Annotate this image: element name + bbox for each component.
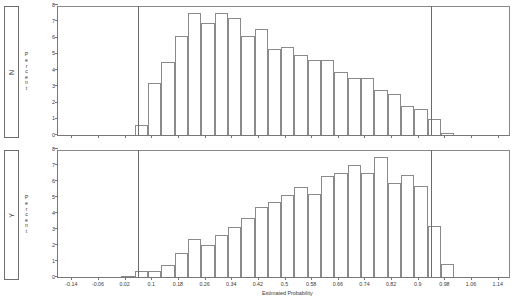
- histogram-bar: [175, 253, 188, 277]
- histogram-bar: [281, 47, 294, 135]
- histogram-bar: [321, 176, 334, 277]
- y-tick-mark: [55, 85, 58, 86]
- y-tick-mark: [55, 37, 58, 38]
- x-tick-label: 1.14: [493, 281, 503, 287]
- x-tick-mark: [178, 277, 179, 280]
- x-tick-mark: [418, 277, 419, 280]
- histogram-bar: [361, 78, 374, 135]
- y-tick-mark: [55, 180, 58, 181]
- histogram-bar: [175, 36, 188, 135]
- histogram-bar: [388, 94, 401, 135]
- histogram-bar: [135, 271, 148, 277]
- histogram-bar: [334, 72, 347, 135]
- x-tick-mark: [471, 277, 472, 280]
- x-tick-label: 0.74: [359, 281, 369, 287]
- x-tick-label: 1.06: [466, 281, 476, 287]
- histogram-bar: [308, 194, 321, 277]
- histogram-bar: [374, 157, 387, 277]
- y-tick-mark: [55, 53, 58, 54]
- histogram-bar: [215, 235, 228, 277]
- x-tick-mark: [338, 135, 339, 138]
- histogram-bar: [255, 29, 268, 135]
- histogram-bar: [374, 90, 387, 136]
- x-tick-label: 0.42: [253, 281, 263, 287]
- histogram-bar: [308, 60, 321, 135]
- panel-strip-y: Y: [4, 150, 19, 280]
- x-tick-mark: [151, 135, 152, 138]
- x-tick-label: 0.66: [333, 281, 343, 287]
- histogram-bar: [348, 165, 361, 277]
- histogram-bar: [201, 23, 214, 135]
- panel-strip-label-n: N: [8, 69, 15, 74]
- panel-y: Y Percent 012345678-0.14-0.060.020.10.18…: [0, 148, 528, 288]
- y-tick-mark: [55, 148, 58, 149]
- histogram-bar: [161, 265, 174, 277]
- plot-canvas-n: 012345678: [57, 6, 510, 136]
- histogram-bar: [268, 49, 281, 135]
- y-axis-title-bottom: Percent: [21, 190, 32, 240]
- x-tick-label: 0.34: [226, 281, 236, 287]
- x-tick-label: 0.26: [199, 281, 209, 287]
- histogram-bar: [334, 173, 347, 277]
- x-tick-mark: [98, 135, 99, 138]
- reference-line: [431, 6, 432, 135]
- x-axis-title: Estimated Probability: [262, 290, 313, 296]
- x-tick-label: 0.5: [281, 281, 288, 287]
- histogram-bar: [294, 187, 307, 277]
- x-tick-mark: [311, 135, 312, 138]
- x-tick-mark: [311, 277, 312, 280]
- x-tick-mark: [364, 135, 365, 138]
- histogram-bar: [148, 271, 161, 277]
- reference-line: [138, 150, 139, 277]
- plot-area-n: 012345678: [57, 6, 510, 136]
- histogram-bar: [321, 60, 334, 135]
- histogram-bar: [441, 133, 454, 135]
- x-tick-label: -0.06: [92, 281, 104, 287]
- y-tick-mark: [55, 118, 58, 119]
- histogram-bar: [148, 83, 161, 135]
- histogram-figure: N Percent 012345678 Y Percent 012345678-…: [0, 0, 528, 303]
- x-tick-mark: [498, 135, 499, 138]
- x-tick-mark: [258, 277, 259, 280]
- y-tick-mark: [55, 196, 58, 197]
- histogram-bar: [135, 125, 148, 135]
- histogram-bar: [188, 13, 201, 135]
- histogram-bar: [215, 13, 228, 135]
- histogram-bar: [388, 183, 401, 277]
- y-tick-mark: [55, 102, 58, 103]
- histogram-bar: [414, 109, 427, 135]
- y-tick-mark: [55, 20, 58, 21]
- reference-line: [138, 6, 139, 135]
- x-tick-mark: [498, 277, 499, 280]
- x-tick-mark: [125, 277, 126, 280]
- histogram-bar: [401, 106, 414, 135]
- x-tick-mark: [391, 135, 392, 138]
- x-tick-mark: [231, 135, 232, 138]
- histogram-bar: [414, 186, 427, 277]
- y-tick-mark: [55, 164, 58, 165]
- x-tick-label: 0.82: [386, 281, 396, 287]
- histogram-bar: [121, 276, 134, 277]
- y-tick-mark: [55, 212, 58, 213]
- x-tick-label: 0.02: [119, 281, 129, 287]
- x-tick-mark: [98, 277, 99, 280]
- panel-n: N Percent 012345678: [0, 2, 528, 142]
- y-tick-mark: [55, 4, 58, 5]
- x-tick-mark: [71, 277, 72, 280]
- y-tick-mark: [55, 260, 58, 261]
- x-tick-mark: [364, 277, 365, 280]
- x-tick-mark: [471, 135, 472, 138]
- histogram-bar: [348, 78, 361, 135]
- panel-strip-n: N: [4, 6, 19, 138]
- histogram-bar: [228, 227, 241, 277]
- x-tick-mark: [205, 277, 206, 280]
- x-tick-label: 0.9: [414, 281, 421, 287]
- x-tick-mark: [285, 277, 286, 280]
- x-tick-mark: [444, 135, 445, 138]
- y-tick-mark: [55, 228, 58, 229]
- histogram-bar: [428, 119, 441, 135]
- plot-canvas-y: 012345678-0.14-0.060.020.10.180.260.340.…: [57, 150, 510, 278]
- histogram-bar: [241, 36, 254, 135]
- histogram-bar: [268, 202, 281, 277]
- plot-area-y: 012345678-0.14-0.060.020.10.180.260.340.…: [57, 150, 510, 278]
